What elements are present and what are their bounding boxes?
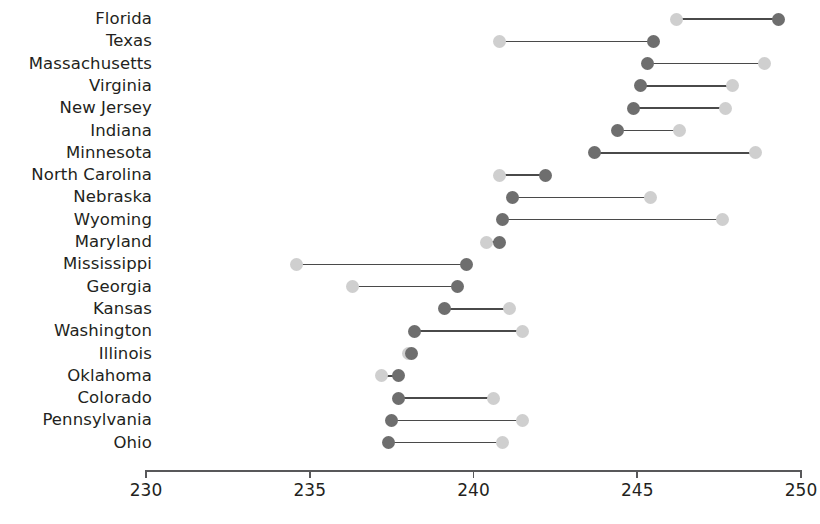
x-axis-tick-label: 235 (294, 482, 326, 499)
data-point-dark[interactable] (539, 169, 552, 182)
data-point-dark[interactable] (506, 191, 519, 204)
data-point-light[interactable] (493, 35, 506, 48)
data-point-dark[interactable] (634, 79, 647, 92)
connector-line (647, 63, 765, 65)
data-point-dark[interactable] (493, 236, 506, 249)
data-point-dark[interactable] (641, 57, 654, 70)
data-point-light[interactable] (758, 57, 771, 70)
data-point-dark[interactable] (438, 302, 451, 315)
data-point-dark[interactable] (627, 102, 640, 115)
data-point-light[interactable] (487, 392, 500, 405)
connector-line (297, 264, 467, 266)
data-point-light[interactable] (516, 414, 529, 427)
connector-line (618, 130, 680, 132)
data-point-dark[interactable] (392, 392, 405, 405)
dumbbell-chart: FloridaTexasMassachusettsVirginiaNew Jer… (0, 0, 820, 524)
connector-line (634, 107, 726, 109)
connector-line (641, 85, 733, 87)
data-point-light[interactable] (516, 325, 529, 338)
connector-line (513, 197, 651, 199)
data-point-dark[interactable] (451, 280, 464, 293)
data-point-light[interactable] (346, 280, 359, 293)
connector-line (595, 152, 755, 154)
data-point-light[interactable] (503, 302, 516, 315)
x-axis-tick (636, 470, 638, 478)
x-axis-tick (309, 470, 311, 478)
data-point-dark[interactable] (460, 258, 473, 271)
x-axis-tick-label: 250 (785, 482, 817, 499)
data-point-light[interactable] (644, 191, 657, 204)
connector-line (503, 219, 722, 221)
data-point-light[interactable] (716, 213, 729, 226)
x-axis-tick (473, 470, 475, 478)
connector-line (388, 442, 503, 444)
connector-line (415, 330, 523, 332)
connector-line (392, 420, 523, 422)
x-axis-tick (145, 470, 147, 478)
data-point-light[interactable] (673, 124, 686, 137)
data-point-dark[interactable] (408, 325, 421, 338)
connector-line (677, 18, 779, 20)
data-point-dark[interactable] (772, 13, 785, 26)
data-point-light[interactable] (290, 258, 303, 271)
data-point-light[interactable] (719, 102, 732, 115)
data-point-dark[interactable] (496, 213, 509, 226)
connector-line (500, 41, 654, 43)
data-point-dark[interactable] (405, 347, 418, 360)
data-point-dark[interactable] (588, 146, 601, 159)
x-axis-tick (800, 470, 802, 478)
data-point-dark[interactable] (382, 436, 395, 449)
plot-area (0, 0, 820, 470)
data-point-light[interactable] (670, 13, 683, 26)
data-point-light[interactable] (749, 146, 762, 159)
x-axis-tick-label: 230 (130, 482, 162, 499)
connector-line (444, 308, 510, 310)
data-point-light[interactable] (496, 436, 509, 449)
data-point-light[interactable] (493, 169, 506, 182)
x-axis-tick-label: 240 (457, 482, 489, 499)
connector-line (352, 286, 457, 288)
connector-line (398, 397, 493, 399)
data-point-light[interactable] (375, 369, 388, 382)
x-axis-tick-label: 245 (621, 482, 653, 499)
data-point-light[interactable] (480, 236, 493, 249)
data-point-dark[interactable] (385, 414, 398, 427)
data-point-dark[interactable] (392, 369, 405, 382)
data-point-dark[interactable] (647, 35, 660, 48)
data-point-light[interactable] (726, 79, 739, 92)
x-axis: 230235240245250 (0, 462, 820, 516)
data-point-dark[interactable] (611, 124, 624, 137)
